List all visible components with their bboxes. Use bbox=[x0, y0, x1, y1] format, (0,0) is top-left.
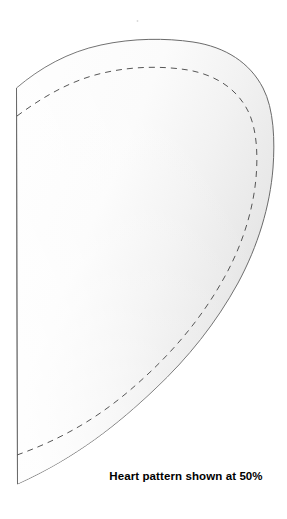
heart-pattern-illustration bbox=[0, 0, 287, 519]
scan-speck bbox=[137, 20, 139, 22]
pattern-caption: Heart pattern shown at 50% bbox=[95, 470, 277, 482]
pattern-piece-highlight bbox=[17, 39, 274, 484]
pattern-sheet: Heart pattern shown at 50% bbox=[0, 0, 287, 519]
